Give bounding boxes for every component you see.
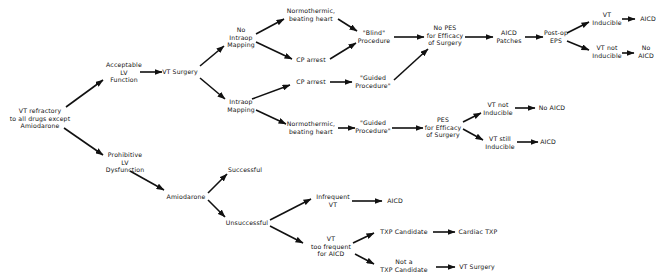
arrow-nomapping-to-cparrest [256,42,292,59]
node-normothermic-top: Normothermic, beating heart [287,7,335,22]
arrow-nomapping-to-normothermic [256,19,284,34]
arrow-unsuccessful-to-toofrequent [270,226,303,243]
node-vt-inducible-top: VT Inducible [592,11,622,26]
arrow-mapping-to-cparrest [252,85,290,99]
arrow-root-to-prohibitive [64,128,103,155]
node-no-aicd-top: No AICD [638,44,654,59]
node-vt-refractory: VT refractory to all drugs except Amioda… [10,107,71,130]
arrow-toofrequent-to-nottxp [355,254,374,264]
arrow-postop-to-notinducible [567,41,589,50]
arrow-amiodarone-to-successful [208,174,227,193]
node-aicd-mid: AICD [540,138,556,146]
node-aicd-patches: AICD Patches [496,29,521,44]
arrow-vtsurgery-to-nomapping [200,46,224,66]
node-pes-bottom: PES for Efficacy of Surgery [425,116,462,139]
node-not-txp-candidate: Not a TXP Candidate [380,258,427,273]
node-aicd-top: AICD [640,15,656,23]
flowchart-canvas: VT refractory to all drugs except Amioda… [0,0,659,278]
node-unsuccessful: Unsuccessful [226,219,268,227]
arrow-prohibitive-to-amiodarone [130,171,164,190]
node-vt-too-frequent: VT too frequent for AICD [311,235,351,258]
node-blind-procedure: "Blind" Procedure [358,29,390,44]
arrow-vtsurgery-to-mapping [200,78,225,99]
node-guided-procedure-mid: "Guided Procedure" [355,74,390,89]
node-successful: Successful [228,166,262,174]
node-vt-still-inducible: VT still Inducible [485,135,515,150]
arrow-toofrequent-to-txp [353,233,374,243]
node-no-intraop-mapping: No Intraop Mapping [227,26,255,49]
node-prohibitive-lv-dysfunction: Prohibitive LV Dysfunction [106,151,145,174]
arrow-root-to-acceptable [66,80,103,107]
node-vt-not-inducible-top: VT not Inducible [592,44,622,59]
node-postop-eps: Post-op EPS [544,29,568,44]
node-guided-procedure-bottom: "Guided Procedure" [355,119,390,134]
arrow-pes-to-stillinducible [463,129,483,140]
node-infrequent-vt: Infrequent VT [316,193,350,208]
node-no-pes: No PES for Efficacy of Surgery [427,24,464,47]
node-cp-arrest-mid: CP arrest [296,78,325,86]
node-vt-surgery-bottom: VT Surgery [459,263,495,271]
arrow-postop-to-inducible [567,22,589,33]
node-acceptable-lv-function: Acceptable LV Function [106,61,142,84]
arrow-cparrest-to-blind [330,43,356,59]
arrow-amiodarone-to-unsuccessful [208,200,225,217]
arrow-mapping-to-normothermic [256,110,286,124]
arrow-guided-to-nopes [394,49,428,80]
node-cardiac-txp: Cardiac TXP [459,228,498,236]
node-intraop-mapping: Intraop Mapping [227,98,255,113]
arrow-unsuccessful-to-infrequent [270,199,311,220]
arrow-normothermic-to-blind [338,19,357,31]
node-aicd-bottom: AICD [387,197,403,205]
node-normothermic-bottom: Normothermic, beating heart [287,120,335,135]
node-no-aicd-mid: No AICD [539,104,566,112]
node-cp-arrest-top: CP arrest [296,56,325,64]
node-vt-surgery: VT Surgery [162,68,198,76]
node-txp-candidate: TXP Candidate [380,228,427,236]
node-vt-not-inducible-mid: VT not Inducible [483,101,513,116]
arrow-pes-to-notinducible [463,113,481,122]
node-amiodarone: Amiodarone [167,193,206,201]
